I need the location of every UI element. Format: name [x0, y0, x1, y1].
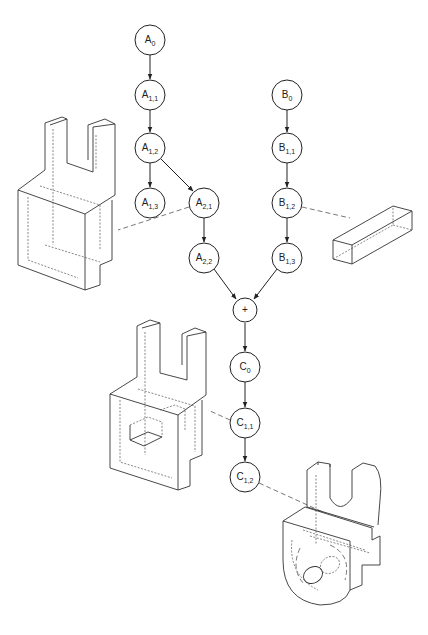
part-model-b12	[333, 206, 412, 264]
label-a11: A1,1	[134, 89, 166, 105]
part-model-c12	[283, 462, 381, 605]
label-a22: A2,2	[188, 252, 220, 268]
label-c12: C1,2	[229, 471, 261, 487]
label-plus: +	[229, 304, 261, 316]
label-a12: A1,2	[134, 142, 166, 158]
label-a13: A1,3	[134, 197, 166, 213]
label-a21: A2,1	[188, 197, 220, 213]
label-b0: B0	[271, 89, 303, 105]
label-a0: A0	[134, 34, 166, 50]
label-c11: C1,1	[229, 417, 261, 433]
label-b11: B1,1	[271, 142, 303, 158]
label-c0: C0	[229, 361, 261, 377]
part-model-a21	[18, 117, 115, 290]
label-b13: B1,3	[271, 252, 303, 268]
diagram-canvas	[0, 0, 428, 635]
part-model-c11	[110, 320, 206, 490]
label-b12: B1,2	[271, 197, 303, 213]
